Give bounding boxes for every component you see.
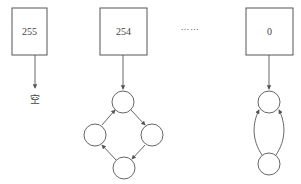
edge-bottom-to-top-right — [276, 110, 284, 155]
bucket-diagram: 255 空 254 …… 0 — [0, 0, 301, 184]
cycle4-node-top — [112, 91, 134, 113]
empty-label: 空 — [30, 93, 40, 105]
edge-bottom-to-left — [102, 145, 116, 160]
ellipsis: …… — [181, 22, 200, 32]
bucket-254: 254 — [84, 8, 163, 179]
bucket-254-label: 254 — [116, 26, 131, 37]
cycle4-node-bottom — [113, 157, 135, 179]
edge-right-to-bottom — [132, 145, 145, 159]
bucket-0: 0 — [246, 8, 293, 175]
cycle4-node-left — [84, 124, 106, 146]
edge-bottom-to-top-left — [254, 110, 262, 155]
cycle4-node-right — [141, 124, 163, 146]
bucket-0-label: 0 — [267, 26, 272, 37]
bucket-255: 255 空 — [12, 8, 47, 105]
cycle2-node-top — [258, 91, 280, 113]
edge-top-to-right — [131, 110, 145, 125]
bucket-255-label: 255 — [22, 26, 37, 37]
edge-left-to-top — [102, 110, 115, 125]
cycle2-node-bottom — [258, 153, 280, 175]
